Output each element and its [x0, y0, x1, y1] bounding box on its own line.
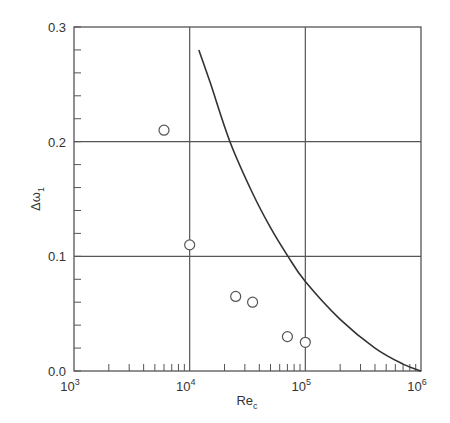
svg-text:Rec: Rec [236, 393, 258, 411]
data-point [159, 125, 169, 135]
y-tick-label: 0.0 [48, 364, 66, 379]
x-tick-label: 104 [176, 377, 195, 394]
svg-text:Δω1: Δω1 [28, 187, 46, 211]
data-point [282, 332, 292, 342]
x-tick-labels: 103104105106 [60, 377, 426, 394]
y-tick-labels: 0.00.10.20.3 [48, 20, 66, 379]
grid-lines [74, 27, 421, 371]
y-tick-label: 0.2 [48, 135, 66, 150]
x-tick-label: 105 [292, 377, 311, 394]
data-point [248, 297, 258, 307]
x-tick-label: 103 [60, 377, 79, 394]
y-tick-label: 0.3 [48, 20, 66, 35]
model-curve [199, 50, 421, 371]
data-points [159, 125, 310, 347]
y-axis-label: Δω1 [28, 187, 46, 211]
data-point [231, 291, 241, 301]
x-axis-label: Rec [236, 393, 258, 411]
axis-ticks [74, 27, 416, 371]
data-point [185, 240, 195, 250]
chart: 0.00.10.20.3 103104105106 Δω1 Rec [0, 0, 450, 423]
y-tick-label: 0.1 [48, 249, 66, 264]
data-point [300, 337, 310, 347]
plot-frame [74, 27, 421, 371]
x-tick-label: 106 [407, 377, 426, 394]
